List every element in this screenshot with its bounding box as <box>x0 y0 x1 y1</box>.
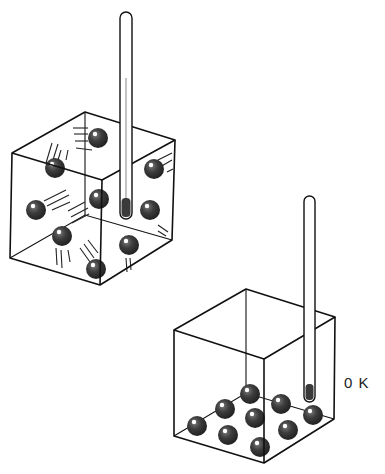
particle <box>89 189 109 209</box>
hot-gas-box <box>10 12 175 285</box>
particle <box>240 384 260 404</box>
particle <box>245 408 265 428</box>
particle <box>303 405 323 425</box>
particle <box>215 399 235 419</box>
thermometer-icon <box>304 196 315 402</box>
back-bottom-edges <box>10 215 172 258</box>
particle <box>187 416 207 436</box>
thermometer-icon <box>120 12 132 219</box>
particle <box>140 200 160 220</box>
particle <box>119 235 139 255</box>
temperature-label: 0 K <box>344 374 370 391</box>
particle <box>218 425 238 445</box>
particle <box>88 128 108 148</box>
particle <box>26 200 46 220</box>
particle <box>278 420 298 440</box>
particle <box>52 226 72 246</box>
particle <box>250 437 270 457</box>
particle <box>271 394 291 414</box>
particle <box>86 259 106 279</box>
particle <box>144 159 164 179</box>
hot-particles <box>26 128 164 279</box>
cold-gas-box: 0 K <box>174 196 370 463</box>
diagram-canvas: 0 K <box>0 0 385 474</box>
